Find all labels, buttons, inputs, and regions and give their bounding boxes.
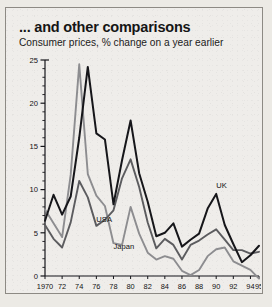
- y-tick-label: 0: [34, 272, 38, 281]
- y-tick-label: 25: [30, 56, 38, 65]
- y-tick-label: 10: [30, 185, 38, 194]
- x-tick-label: 92: [229, 282, 237, 291]
- series-line-usa: [45, 159, 259, 259]
- chart-frame: ... and other comparisons Consumer price…: [5, 7, 263, 294]
- x-tick-label: 90: [212, 282, 220, 291]
- chart-title: ... and other comparisons: [19, 19, 190, 35]
- series-label-uk: UK: [216, 181, 227, 190]
- x-tick-label: 72: [58, 282, 66, 291]
- chart-page: ... and other comparisons Consumer price…: [0, 0, 272, 307]
- y-tick-label: 5: [34, 229, 38, 238]
- series-line-japan: [45, 64, 259, 278]
- x-tick-label: 86: [178, 282, 186, 291]
- series-label-usa: USA: [96, 215, 113, 224]
- series-label-japan: Japan: [113, 242, 134, 251]
- plot-area: 0510152025197072747678808284868890929495…: [19, 54, 261, 299]
- x-tick-label: 88: [195, 282, 203, 291]
- y-tick-label: 20: [30, 99, 38, 108]
- x-tick-label: 95: [255, 282, 261, 291]
- x-tick-label: 82: [144, 282, 152, 291]
- y-tick-label: 15: [30, 142, 38, 151]
- x-tick-label: 84: [161, 282, 169, 291]
- x-tick-label: 74: [75, 282, 83, 291]
- x-tick-label: 80: [126, 282, 134, 291]
- x-tick-label: 78: [109, 282, 117, 291]
- x-tick-label: 94: [246, 282, 254, 291]
- line-chart-svg: 0510152025197072747678808284868890929495…: [19, 54, 261, 299]
- chart-subtitle: Consumer prices, % change on a year earl…: [19, 37, 223, 48]
- x-tick-label: 76: [92, 282, 100, 291]
- x-tick-label: 1970: [37, 282, 53, 291]
